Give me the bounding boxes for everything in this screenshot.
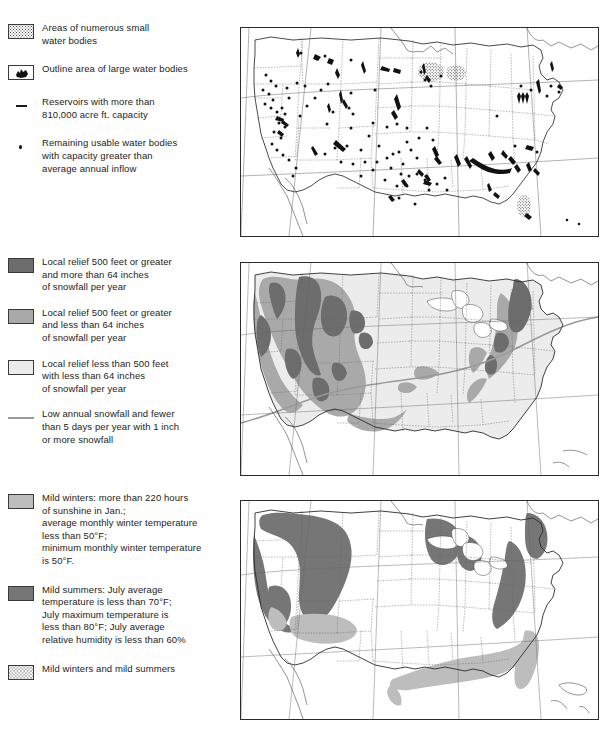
mid-gray-swatch (8, 309, 34, 324)
swatch-cell (0, 492, 42, 509)
legend-line: Mild summers: July average (42, 584, 186, 597)
mild-summers-area (253, 513, 548, 633)
swatch-cell (0, 663, 42, 680)
legend-item: Mild summers: July average temperature i… (0, 584, 236, 647)
legend-item-label: Low annual snowfall and fewer than 5 day… (42, 408, 179, 446)
legend-line: of snowfall per year (42, 332, 172, 345)
gray-line-swatch (8, 410, 34, 425)
legend-line: is 50°F. (42, 555, 202, 568)
legend-item: Mild winters and mild summers (0, 663, 236, 680)
legend-item-label: Local relief 500 feet or greater and les… (42, 307, 172, 345)
legend-line: minimum monthly winter temperature (42, 542, 202, 555)
legend-item-label: Mild winters: more than 220 hours of sun… (42, 492, 202, 568)
legend-item-label: Remaining usable water bodies with capac… (42, 137, 177, 175)
swatch-cell (0, 137, 42, 154)
swatch-cell (0, 307, 42, 324)
mild-climate-map (240, 500, 599, 720)
legend-line: less than 50°F; (42, 530, 202, 543)
legend-line: of sunshine in Jan.; (42, 505, 202, 518)
legend-line: Local relief less than 500 feet (42, 358, 169, 371)
legend-line: Local relief 500 feet or greater (42, 307, 172, 320)
legend-line: Reservoirs with more than (42, 96, 155, 109)
legend-line: and less than 64 inches (42, 319, 172, 332)
legend-item-label: Mild winters and mild summers (42, 663, 175, 676)
swatch-cell (0, 22, 42, 39)
light-gray-swatch (8, 494, 34, 509)
dark-gray-swatch (8, 586, 34, 601)
legend-line: Remaining usable water bodies (42, 137, 177, 150)
legend-line: average annual inflow (42, 163, 177, 176)
legend-item: Local relief 500 feet or greater and les… (0, 307, 236, 345)
legend-line: average monthly winter temperature (42, 517, 202, 530)
swatch-cell (0, 63, 42, 80)
swatch-cell (0, 256, 42, 273)
legend-line: and more than 64 inches (42, 269, 172, 282)
legend-item: Outline area of large water bodies (0, 63, 236, 80)
legend-line: Local relief 500 feet or greater (42, 256, 172, 269)
legend-line: Low annual snowfall and fewer (42, 408, 179, 421)
legend-item-label: Mild summers: July average temperature i… (42, 584, 186, 647)
swatch-cell (0, 96, 42, 113)
legend-line: temperature is less than 70°F; (42, 596, 186, 609)
mild-climate-map-svg (241, 501, 598, 719)
legend-line: Mild winters: more than 220 hours (42, 492, 202, 505)
legend-item: Mild winters: more than 220 hours of sun… (0, 492, 236, 568)
legend-line: Areas of numerous small (42, 22, 149, 35)
us-coastline (254, 37, 563, 204)
legend-relief-snowfall: Local relief 500 feet or greater and mor… (0, 256, 236, 460)
swatch-cell (0, 408, 42, 425)
legend-item-label: Areas of numerous small water bodies (42, 22, 149, 47)
legend-line: water bodies (42, 35, 149, 48)
legend-line: Mild winters and mild summers (42, 663, 175, 676)
dark-gray-swatch (8, 258, 34, 273)
legend-line: of snowfall per year (42, 383, 169, 396)
lake-outline-swatch (8, 65, 34, 80)
legend-column: Areas of numerous small water bodies Out… (0, 0, 236, 748)
graticule (241, 28, 598, 236)
legend-line: or more snowfall (42, 434, 179, 447)
legend-item: Remaining usable water bodies with capac… (0, 137, 236, 175)
legend-item: Areas of numerous small water bodies (0, 22, 236, 47)
pale-gray-swatch (8, 360, 34, 375)
figure-page: Areas of numerous small water bodies Out… (0, 0, 611, 748)
swatch-cell (0, 584, 42, 601)
legend-line: less than 80°F; July average (42, 621, 186, 634)
legend-mild-climate: Mild winters: more than 220 hours of sun… (0, 492, 236, 694)
dot-swatch (15, 139, 28, 154)
relief-snowfall-map-svg (241, 263, 598, 475)
legend-line: relative humidity is less than 60% (42, 634, 186, 647)
swatch-cell (0, 358, 42, 375)
legend-water-bodies: Areas of numerous small water bodies Out… (0, 22, 236, 189)
legend-item-label: Local relief 500 feet or greater and mor… (42, 256, 172, 294)
dash-swatch (15, 98, 28, 113)
legend-line: than 5 days per year with 1 inch (42, 421, 179, 434)
legend-item: Local relief less than 500 feet with les… (0, 358, 236, 396)
legend-item: Reservoirs with more than 810,000 acre f… (0, 96, 236, 121)
lake-shape-icon (15, 68, 29, 79)
stipple-swatch (8, 665, 34, 680)
legend-item-label: Outline area of large water bodies (42, 63, 188, 76)
water-bodies-map (240, 27, 599, 237)
relief-snowfall-map (240, 262, 599, 476)
legend-item-label: Local relief less than 500 feet with les… (42, 358, 169, 396)
legend-line: Outline area of large water bodies (42, 63, 188, 76)
legend-line: with less than 64 inches (42, 370, 169, 383)
legend-item-label: Reservoirs with more than 810,000 acre f… (42, 96, 155, 121)
stipple-swatch (8, 24, 34, 39)
legend-line: with capacity greater than (42, 150, 177, 163)
water-bodies-map-svg (241, 28, 598, 236)
legend-line: July maximum temperature is (42, 609, 186, 622)
legend-item: Local relief 500 feet or greater and mor… (0, 256, 236, 294)
legend-line: of snowfall per year (42, 281, 172, 294)
legend-line: 810,000 acre ft. capacity (42, 109, 155, 122)
legend-item: Low annual snowfall and fewer than 5 day… (0, 408, 236, 446)
